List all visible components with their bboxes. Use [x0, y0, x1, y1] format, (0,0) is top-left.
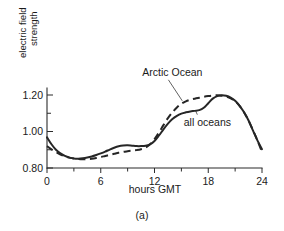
y-axis-title-line1: electric field — [17, 7, 28, 58]
y-axis-title-group: electric field strength — [17, 7, 39, 58]
figure-panel: 061218240.801.001.20 Arctic Oceanall oce… — [0, 0, 284, 231]
y-tick-label: 1.00 — [23, 125, 44, 137]
y-tick-label: 0.80 — [23, 162, 44, 174]
x-tick-label: 0 — [44, 175, 50, 187]
x-tick-label: 18 — [202, 175, 214, 187]
annotation-label-arctic-ocean: Arctic Ocean — [142, 66, 202, 78]
x-tick-label: 6 — [98, 175, 104, 187]
x-axis-title: hours GMT — [129, 183, 182, 195]
plot-area: 061218240.801.001.20 Arctic Oceanall oce… — [23, 66, 268, 187]
axis-ticks — [47, 95, 262, 173]
figure-caption: (a) — [136, 209, 149, 221]
x-tick-label: 24 — [256, 175, 268, 187]
annotation-label-all-oceans: all oceans — [184, 116, 231, 128]
annotation-leader-arctic-ocean — [168, 80, 182, 101]
axis-tick-labels: 061218240.801.001.20 — [23, 89, 268, 187]
electric-field-chart: 061218240.801.001.20 Arctic Oceanall oce… — [0, 0, 284, 231]
y-axis-title-line2: strength — [28, 11, 39, 46]
y-tick-label: 1.20 — [23, 89, 44, 101]
